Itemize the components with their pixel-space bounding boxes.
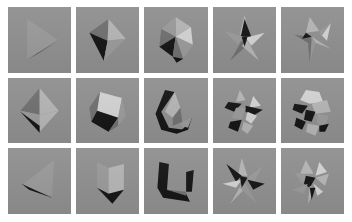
face-r3c5-f1 xyxy=(300,160,313,174)
face-r1c2-f3 xyxy=(108,19,126,41)
tile-icosahedron xyxy=(144,7,207,73)
render-six-point-star-stellation xyxy=(213,148,276,214)
tile-faceted-cluster-a xyxy=(213,78,276,144)
render-icosahedron xyxy=(144,7,207,73)
face-r2c1-f2 xyxy=(40,88,59,115)
face-r2c1-f1 xyxy=(20,88,39,115)
face-r3c4-f5 xyxy=(247,180,264,190)
render-spiked-ball xyxy=(281,148,344,214)
tile-crescent-solid xyxy=(144,78,207,144)
face-r3c2-f2 xyxy=(109,164,124,194)
face-r3c3-f1 xyxy=(158,162,191,202)
tile-octahedron xyxy=(8,78,71,144)
face-r3c4-f1 xyxy=(237,158,247,176)
face-r2c5-f8 xyxy=(319,123,329,131)
face-r2c5-f7 xyxy=(306,123,319,135)
polyhedra-image-grid xyxy=(0,0,352,222)
tile-spiked-ball xyxy=(281,148,344,214)
render-four-point-star-spike xyxy=(281,7,344,73)
render-hook-solid xyxy=(144,148,207,214)
render-right-pointing-triangle xyxy=(8,7,71,73)
tile-faceted-sphere-cluster xyxy=(281,78,344,144)
tile-hook-solid xyxy=(144,148,207,214)
face-r2c4-f1 xyxy=(236,90,246,102)
face-r3c5-f2 xyxy=(315,162,326,176)
face-r2c5-f4 xyxy=(304,109,315,121)
face-r1c5-f1 xyxy=(306,17,319,33)
render-cuboctahedron xyxy=(76,78,139,144)
render-faceted-cluster-a xyxy=(213,78,276,144)
tile-cuboctahedron xyxy=(76,78,139,144)
tile-cube xyxy=(76,148,139,214)
render-five-point-star-stellation xyxy=(213,7,276,73)
face-r2c4-f3 xyxy=(249,96,260,108)
face-r2c5-f5 xyxy=(317,113,328,125)
face-r2c4-f7 xyxy=(228,119,241,131)
screenshot-root xyxy=(0,0,352,222)
render-tetrahedron-dark-face xyxy=(76,7,139,73)
face-r3c5-f4 xyxy=(315,174,328,186)
face-r3c1-f1 xyxy=(21,160,54,196)
face-r3c4-f4 xyxy=(222,180,241,188)
tile-tetrahedron-dark-face xyxy=(76,7,139,73)
render-cube xyxy=(76,148,139,214)
face-r3c5-f6 xyxy=(292,184,307,194)
tile-flat-triangle-sliver xyxy=(8,148,71,214)
render-flat-triangle-sliver xyxy=(8,148,71,214)
tile-four-point-star-spike xyxy=(281,7,344,73)
render-faceted-sphere-cluster xyxy=(281,78,344,144)
face-r2c4-f8 xyxy=(241,121,252,133)
face-r1c1-f1 xyxy=(27,19,58,59)
tile-six-point-star-stellation xyxy=(213,148,276,214)
tile-right-pointing-triangle xyxy=(8,7,71,73)
face-r3c3-f2 xyxy=(187,170,195,192)
render-crescent-solid xyxy=(144,78,207,144)
tile-five-point-star-stellation xyxy=(213,7,276,73)
face-r2c5-f1 xyxy=(300,90,323,104)
render-octahedron xyxy=(8,78,71,144)
